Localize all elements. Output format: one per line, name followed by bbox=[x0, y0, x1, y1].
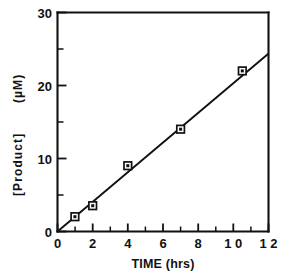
x-tick-label-10: 1 0 bbox=[224, 236, 242, 251]
data-point-5 bbox=[239, 67, 247, 75]
data-point-1 bbox=[71, 213, 79, 221]
scatter-plot: 30 20 10 0 0 2 4 6 8 1 0 1 2 TIME (hrs) … bbox=[0, 0, 288, 278]
y-tick-label-10: 10 bbox=[38, 152, 52, 167]
y-axis-title-units: (µM) bbox=[11, 74, 25, 103]
x-tick-label-12: 1 2 bbox=[259, 236, 277, 251]
data-point-3 bbox=[124, 162, 132, 170]
x-tick-label-2: 2 bbox=[89, 236, 96, 251]
plot-frame bbox=[58, 13, 269, 232]
x-tick-label-6: 6 bbox=[159, 236, 166, 251]
x-major-ticks bbox=[58, 224, 269, 232]
x-tick-label-0: 0 bbox=[54, 236, 61, 251]
x-tick-label-8: 8 bbox=[195, 236, 202, 251]
data-point-2 bbox=[89, 202, 97, 210]
y-tick-label-30: 30 bbox=[38, 6, 52, 21]
y-axis-title-product: [Product] bbox=[11, 133, 25, 196]
y-tick-label-0: 0 bbox=[45, 225, 52, 240]
data-point-4 bbox=[177, 125, 185, 133]
x-axis-title: TIME (hrs) bbox=[131, 257, 194, 271]
chart-figure: 30 20 10 0 0 2 4 6 8 1 0 1 2 TIME (hrs) … bbox=[0, 0, 288, 278]
x-tick-label-4: 4 bbox=[124, 236, 132, 251]
y-tick-label-20: 20 bbox=[38, 79, 52, 94]
